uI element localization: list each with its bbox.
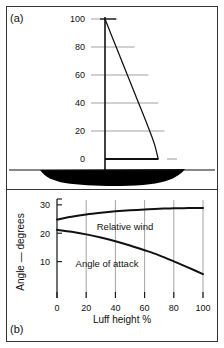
boat-hull-silhouette: [40, 169, 185, 186]
sail-leech-curve: [105, 19, 158, 159]
y-axis-title-b: Angle — degrees: [15, 213, 26, 290]
y-tick-label-b: 30: [40, 200, 50, 210]
y-tick-label-a: 60: [75, 70, 85, 80]
panel-b-tag: (b): [10, 323, 23, 335]
x-tick-label-b: 20: [81, 303, 91, 313]
y-tick-label-a: 20: [75, 126, 85, 136]
y-tick-label-a: 100: [70, 14, 85, 24]
y-tick-label-a: 0: [80, 154, 85, 164]
panel-a-canvas: 020406080100: [7, 7, 217, 189]
x-tick-label-b: 40: [110, 303, 120, 313]
x-tick-label-b: 80: [169, 303, 179, 313]
figure-root: 020406080100 (a) 102030020406080100Relat…: [0, 0, 224, 348]
y-tick-label-a: 40: [75, 98, 85, 108]
y-tick-label-b: 20: [40, 229, 50, 239]
x-tick-label-b: 0: [54, 303, 59, 313]
y-tick-label-b: 10: [40, 257, 50, 267]
panel-b-canvas: 102030020406080100Relative windAngle of …: [7, 190, 217, 341]
y-tick-label-a: 80: [75, 42, 85, 52]
x-tick-label-b: 60: [140, 303, 150, 313]
curve-relative-wind: [57, 208, 203, 220]
panel-b-angle-chart: 102030020406080100Relative windAngle of …: [7, 190, 217, 341]
series-label-relative-wind: Relative wind: [97, 221, 154, 232]
series-label-angle-of-attack: Angle of attack: [76, 258, 139, 269]
x-tick-label-b: 100: [195, 303, 210, 313]
panel-a-tag: (a): [10, 12, 23, 24]
x-axis-title-b: Luff height %: [93, 314, 151, 325]
panel-a-sail-plan: 020406080100: [7, 7, 217, 189]
